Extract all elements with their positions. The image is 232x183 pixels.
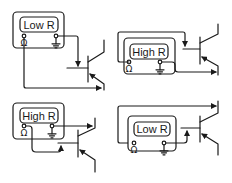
meter-label: Low R [23,19,54,31]
transistor-icon [67,40,104,90]
meter-label: High R [22,110,56,122]
multimeter: Low R Ω [128,116,176,155]
ohm-icon: Ω [21,128,28,138]
multimeter: High R Ω [13,103,64,139]
diagram-canvas: Low R Ω High R Ω [0,0,232,183]
meter-label: Low R [136,123,167,135]
panel-bottom-left: High R Ω [13,103,95,172]
panel-top-left: Low R Ω [13,12,104,90]
multimeter: Low R Ω [13,12,64,48]
ohm-icon: Ω [126,64,133,74]
multimeter: High R Ω [124,38,175,74]
transistor-icon [181,101,218,155]
panel-bottom-right: Low R Ω [118,101,218,155]
meter-label: High R [132,46,166,58]
transistor-icon [183,24,218,75]
panel-top-right: High R Ω [118,24,218,75]
ohm-icon: Ω [131,145,138,155]
